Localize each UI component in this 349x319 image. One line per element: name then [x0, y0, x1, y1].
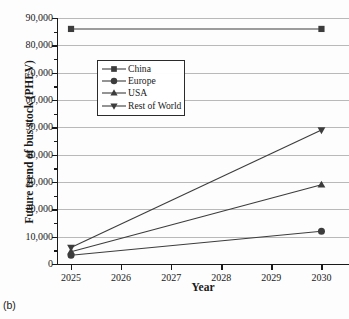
x-tick: [171, 265, 172, 270]
y-tick-label: 80,000: [0, 39, 53, 50]
plot-area: 010,00020,00030,00040,00050,00060,00070,…: [57, 18, 349, 264]
y-tick-label: 40,000: [0, 149, 53, 160]
x-axis-line: [57, 264, 349, 265]
series-line: [71, 185, 321, 252]
y-tick-label: 20,000: [0, 203, 53, 214]
data-point-marker: [318, 26, 324, 32]
chart-legend: ChinaEuropeUSARest of World: [97, 60, 185, 116]
legend-marker-triangle-up-icon: [101, 87, 127, 99]
legend-label: Europe: [127, 75, 156, 87]
x-tick: [71, 265, 72, 270]
x-tick: [121, 265, 122, 270]
x-axis-title: Year: [57, 281, 349, 293]
y-tick-label: 70,000: [0, 67, 53, 78]
legend-label: Rest of World: [127, 100, 181, 112]
series-europe: [68, 228, 325, 259]
y-tick-label: 10,000: [0, 231, 53, 242]
data-point-marker: [318, 127, 326, 134]
legend-item-europe: Europe: [101, 75, 181, 87]
x-tick: [321, 265, 322, 270]
legend-label: China: [127, 63, 151, 75]
series-line: [71, 130, 321, 248]
legend-item-china: China: [101, 63, 181, 75]
x-tick: [221, 265, 222, 270]
legend-item-rest-of-world: Rest of World: [101, 100, 181, 112]
legend-marker-circle-icon: [101, 75, 127, 87]
y-tick-label: 50,000: [0, 121, 53, 132]
series-layer: [57, 18, 349, 264]
y-tick-label: 0: [0, 258, 53, 269]
legend-marker-square-icon: [101, 63, 127, 75]
series-china: [68, 26, 325, 32]
series-rest-of-world: [67, 127, 325, 251]
legend-marker-triangle-down-icon: [101, 100, 127, 112]
figure-panel-b: Future trend of bus stock (PHEV) 010,000…: [0, 0, 349, 319]
y-axis-title: Future trend of bus stock (PHEV): [23, 17, 35, 267]
y-tick-label: 60,000: [0, 94, 53, 105]
series-line: [71, 231, 321, 255]
panel-label: (b): [3, 299, 16, 311]
y-tick-label: 30,000: [0, 176, 53, 187]
data-point-marker: [318, 228, 325, 235]
y-tick-label: 90,000: [0, 12, 53, 23]
data-point-marker: [318, 181, 326, 188]
legend-label: USA: [127, 87, 147, 99]
data-point-marker: [68, 26, 74, 32]
legend-item-usa: USA: [101, 87, 181, 99]
x-tick: [271, 265, 272, 270]
